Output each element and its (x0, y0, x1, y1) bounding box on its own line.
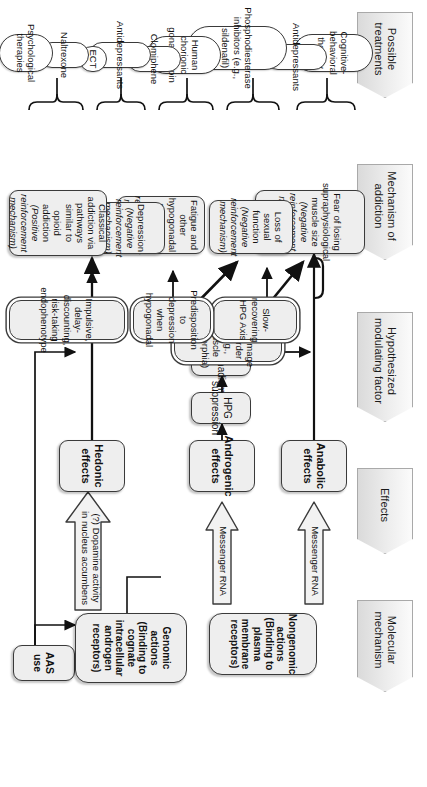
treatment-label-line1: Human chorionic (179, 27, 201, 82)
node-predisposition-to-depression[interactable]: Predisposition to depression when hypogo… (133, 300, 211, 340)
treatment-label-line1: Psychological (26, 24, 37, 82)
node-label-line5: mechanism) (8, 194, 19, 252)
node-genomic-actions[interactable]: Genomic actions (Binding to cognate intr… (75, 613, 187, 683)
node-label-line4: (Positive reinforcement (19, 194, 41, 252)
node-androgenic-effects[interactable]: Androgenic effects (189, 440, 255, 492)
band-label-line2: modulating factor (373, 318, 385, 404)
treatment-label: Antidepressants (291, 23, 302, 91)
band-header-effects: Effects (357, 468, 413, 554)
treatment-label: Antidepressants (115, 21, 126, 89)
node-label-line1: Anabolic (314, 443, 327, 489)
node-hpg-suppression[interactable]: HPG suppression (191, 392, 251, 424)
node-label-line3: hypogonadal (144, 290, 155, 350)
band-label-line1: Hypothesized (386, 327, 398, 395)
treatment-label: ECT (88, 50, 99, 69)
treatment-label-line1: Phosphodiesterase (243, 7, 254, 88)
band-header-mechanism-of-addiction: Mechanism of addiction (357, 164, 413, 260)
node-label-line1: Loss of sexual function (251, 198, 284, 256)
node-label-line1: Classical addiction via (86, 194, 108, 252)
node-label-line2: effects (301, 443, 314, 489)
block-arrow-messenger-rna-androgenic (205, 500, 239, 604)
node-label-line1: Impulsive, delay-discounting, (62, 287, 95, 353)
block-arrow-dopamine-activity (65, 490, 111, 610)
node-label-line1: Fear of losing (332, 183, 343, 261)
node-label-line2: (Negative reinforcement (114, 199, 136, 257)
band-label-line1: Molecular (386, 616, 398, 665)
node-label-line2: HPG Axis (238, 298, 249, 342)
node-label-line1: Genomic actions (148, 617, 171, 679)
treatment-label-line1: Cognitive-behavioral (328, 31, 350, 75)
block-arrow-messenger-rna-anabolic (297, 500, 331, 604)
node-label-line2: supraphysiological muscle size (310, 183, 332, 261)
band-label-line1: Possible (386, 28, 398, 70)
node-label-line2: (Negative reinforcement (229, 198, 251, 256)
diagram-canvas: Molecular mechanism Effects Hypothesized… (0, 0, 427, 787)
node-label-line2: (Binding to plasma (251, 614, 274, 675)
band-label-line1: Mechanism (386, 171, 398, 228)
node-aas-use[interactable]: AAS use (13, 645, 75, 681)
node-label-line2: risk-taking endophenotype (39, 287, 61, 353)
node-impulsive-endophenotype[interactable]: Impulsive, delay-discounting, risk-takin… (9, 300, 125, 340)
node-label-line1: Androgenic (222, 435, 235, 496)
node-label-line3: membrane receptors) (228, 614, 251, 675)
band-header-molecular-mechanism: Molecular mechanism (357, 600, 413, 692)
node-hedonic-effects[interactable]: Hedonic effects (59, 440, 125, 492)
node-label-line1: Fatigue and other (178, 196, 200, 254)
node-label-line3: intracellular androgen (102, 617, 125, 679)
node-label-line2: depression when (155, 290, 177, 350)
band-label-line2: treatments (373, 23, 385, 76)
node-label: AAS use (32, 649, 56, 677)
treatment-label-line2: therapies (15, 24, 26, 82)
node-nongenomic-actions[interactable]: Nongenomic actions (Binding to plasma me… (209, 613, 317, 675)
treatment-psychological-therapies[interactable]: Psychological therapies (0, 34, 53, 72)
node-label-line2: (Binding to cognate (125, 617, 148, 679)
node-label-line2: pathways similar to (64, 194, 86, 252)
treatment-label: Naltrexone (59, 32, 70, 78)
node-anabolic-effects[interactable]: Anabolic effects (281, 440, 347, 492)
node-label-line1: Slow-recovering (250, 298, 272, 342)
node-label-line2: effects (79, 444, 92, 487)
band-header-hypothesized-modulating-factor: Hypothesized modulating factor (357, 312, 413, 422)
node-label-line1: Depression (136, 199, 147, 257)
node-loss-of-sexual-function[interactable]: Loss of sexual function (Negative reinfo… (209, 200, 293, 254)
band-label-line1: Effects (379, 488, 391, 522)
node-label-line3: mechanism) (218, 198, 229, 256)
node-label-line3: opioid addiction (41, 194, 63, 252)
node-classical-addiction[interactable]: Classical addiction via pathways similar… (9, 190, 107, 256)
band-label-line2: mechanism (373, 611, 385, 668)
node-label-line4: receptors) (90, 617, 102, 679)
node-label-line1: Nongenomic actions (275, 614, 298, 675)
treatment-label-line2: inhibitors (e.g., sildenafil) (220, 7, 242, 88)
node-label-line2: effects (209, 435, 222, 496)
node-label-line1: Predisposition to (178, 290, 200, 350)
node-label-line1: Hedonic (92, 444, 105, 487)
node-slow-recovering-hpg-axis[interactable]: Slow-recovering HPG Axis (213, 300, 297, 340)
